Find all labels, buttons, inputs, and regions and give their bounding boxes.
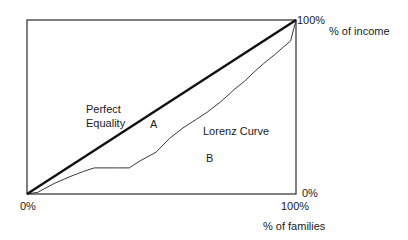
lorenz-curve-label: Lorenz Curve	[203, 125, 269, 137]
origin-tick-label: 0%	[20, 200, 36, 212]
y-axis-title: % of income	[329, 25, 390, 37]
y-min-right-tick-label: 0%	[302, 187, 318, 199]
perfect-equality-label-line1: Perfect	[86, 103, 121, 115]
area-b-label: B	[206, 152, 213, 164]
y-max-tick-label: 100%	[297, 14, 325, 26]
perfect-equality-label-line2: Equality	[86, 117, 125, 129]
area-a-label: A	[150, 118, 157, 130]
x-max-tick-label: 100%	[281, 200, 309, 212]
perfect-equality-line	[27, 20, 296, 194]
x-axis-title: % of families	[263, 220, 325, 232]
